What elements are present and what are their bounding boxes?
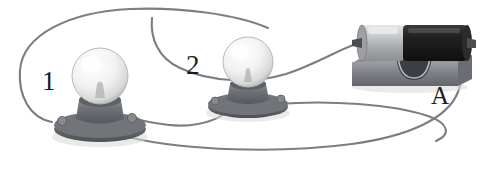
circuit-diagram-figure: 1 2 A	[0, 0, 484, 171]
battery-cell-gloss-stripe	[368, 27, 398, 34]
bulb-2-label: 2	[186, 52, 200, 79]
light-bulb-1	[52, 48, 148, 147]
battery-terminal-left	[352, 38, 362, 48]
socket-screw-right-2	[277, 95, 285, 103]
wire-bottom-inner-loop	[276, 103, 446, 142]
battery-label: A	[431, 83, 449, 108]
circuit-illustration	[0, 0, 484, 171]
battery-terminal-right	[467, 38, 476, 48]
bulb-1-label: 1	[42, 68, 56, 95]
battery-in-holder	[352, 25, 476, 93]
socket-screw-left-1	[58, 117, 67, 126]
battery-cell-dark-gloss	[408, 28, 460, 33]
bulb-highlight-1	[81, 56, 101, 72]
socket-screw-right-1	[128, 114, 137, 123]
bulb-highlight-2	[231, 45, 249, 59]
socket-screw-left-2	[211, 97, 219, 105]
